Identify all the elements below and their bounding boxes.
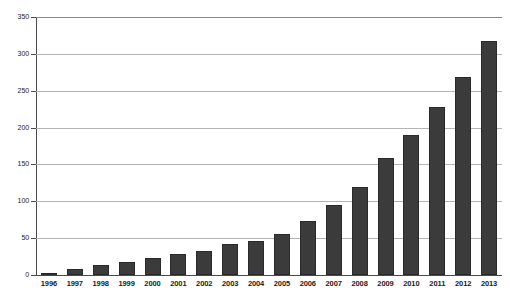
y-axis-label: 150 [1, 160, 29, 168]
x-axis-label: 1999 [114, 279, 140, 289]
x-axis-label: 2011 [424, 279, 450, 289]
x-axis-label: 2006 [295, 279, 321, 289]
x-axis-label: 2005 [269, 279, 295, 289]
bar [300, 221, 316, 275]
bar [248, 241, 264, 275]
y-axis-label-wrap: 0 [0, 271, 29, 279]
x-axis-label: 1997 [62, 279, 88, 289]
x-axis-label: 2009 [373, 279, 399, 289]
x-axis-label: 1998 [88, 279, 114, 289]
y-axis-label-wrap: 350 [0, 13, 29, 21]
x-axis-label: 2008 [347, 279, 373, 289]
y-axis-label: 0 [1, 271, 29, 279]
bar [352, 187, 368, 275]
bar [41, 273, 57, 275]
y-axis-label-wrap: 150 [0, 160, 29, 168]
bar [196, 251, 212, 275]
x-axis-label: 2010 [398, 279, 424, 289]
bar [455, 77, 471, 275]
y-axis-label: 200 [1, 124, 29, 132]
y-axis-label: 50 [1, 234, 29, 242]
x-axis-label: 2000 [140, 279, 166, 289]
y-axis-label-wrap: 300 [0, 50, 29, 58]
x-axis-label: 2004 [243, 279, 269, 289]
bar [429, 107, 445, 275]
bar [481, 41, 497, 275]
bar-chart: 050100150200250300350 199619971998199920… [0, 0, 510, 305]
y-axis-label-wrap: 200 [0, 124, 29, 132]
bar [67, 269, 83, 275]
x-axis-label: 1996 [36, 279, 62, 289]
x-axis-label: 2012 [450, 279, 476, 289]
bar [119, 262, 135, 275]
bar [145, 258, 161, 275]
bar [93, 265, 109, 275]
bar [403, 135, 419, 275]
bar [222, 244, 238, 275]
bar [378, 158, 394, 275]
y-axis-label-wrap: 50 [0, 234, 29, 242]
plot-area [36, 17, 502, 275]
x-axis-label: 2013 [476, 279, 502, 289]
bar [326, 205, 342, 275]
y-axis-label-wrap: 250 [0, 87, 29, 95]
y-axis-label: 350 [1, 13, 29, 21]
x-axis-label: 2001 [165, 279, 191, 289]
x-axis-label: 2003 [217, 279, 243, 289]
x-axis-label: 2007 [321, 279, 347, 289]
bars [36, 17, 502, 275]
y-axis-label-wrap: 100 [0, 197, 29, 205]
y-axis-label: 300 [1, 50, 29, 58]
bar [170, 254, 186, 275]
y-axis-label: 100 [1, 197, 29, 205]
y-axis-label: 250 [1, 87, 29, 95]
x-axis-label: 2002 [191, 279, 217, 289]
bar [274, 234, 290, 275]
x-axis-line [36, 275, 502, 276]
